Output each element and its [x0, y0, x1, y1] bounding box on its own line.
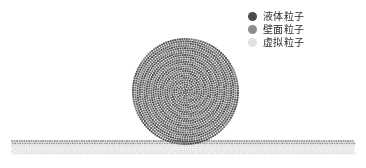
legend-item-wall-particles: 壁面粒子: [248, 23, 360, 36]
legend-marker-liquid-icon: [248, 12, 257, 21]
legend-label-virtual: 虚拟粒子: [263, 36, 304, 49]
legend: 液体粒子 壁面粒子 虚拟粒子: [248, 10, 360, 49]
legend-marker-wall-icon: [248, 25, 257, 34]
legend-label-liquid: 液体粒子: [263, 10, 304, 23]
legend-label-wall: 壁面粒子: [263, 23, 304, 36]
legend-item-liquid-particles: 液体粒子: [248, 10, 360, 23]
legend-marker-virtual-icon: [248, 38, 257, 47]
figure-panel: 液体粒子 壁面粒子 虚拟粒子: [0, 0, 366, 168]
legend-item-virtual-particles: 虚拟粒子: [248, 36, 360, 49]
